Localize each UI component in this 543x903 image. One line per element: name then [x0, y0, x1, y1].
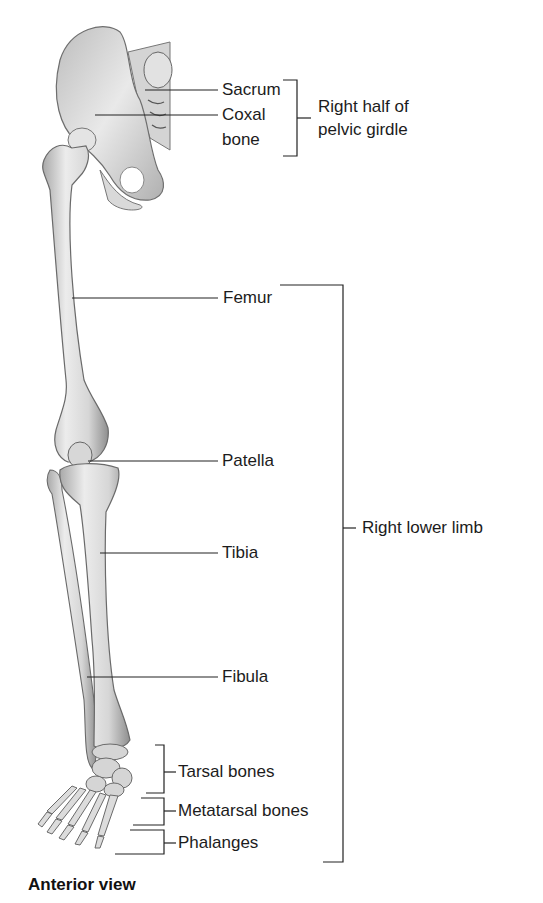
label-pelvic-girdle-line2: pelvic girdle	[318, 120, 408, 140]
label-tibia: Tibia	[222, 543, 258, 563]
label-phalanges: Phalanges	[178, 833, 258, 853]
label-right-lower-limb: Right lower limb	[362, 518, 483, 538]
label-femur: Femur	[223, 288, 272, 308]
label-metatarsal-bones: Metatarsal bones	[178, 801, 308, 821]
label-patella: Patella	[222, 451, 274, 471]
label-fibula: Fibula	[222, 667, 268, 687]
label-coxal-bone-line2: bone	[222, 130, 260, 150]
view-caption: Anterior view	[28, 875, 136, 895]
metatarsal-and-phalanx-bones	[38, 786, 118, 848]
femur-bone	[43, 128, 109, 462]
label-pelvic-girdle-line1: Right half of	[318, 97, 409, 117]
label-sacrum: Sacrum	[222, 80, 281, 100]
tarsal-bones	[86, 744, 132, 797]
label-tarsal-bones: Tarsal bones	[178, 762, 274, 782]
label-coxal-bone-line1: Coxal	[222, 105, 265, 125]
